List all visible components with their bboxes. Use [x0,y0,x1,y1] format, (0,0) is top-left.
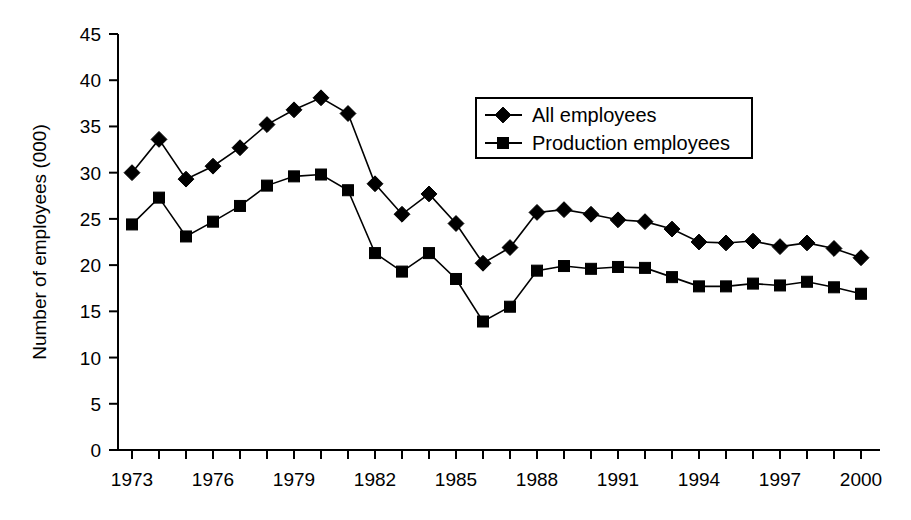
data-point-marker [124,165,140,181]
data-point-marker [829,282,840,293]
legend-item-label: All employees [532,104,657,126]
x-axis-tick-label: 1973 [111,469,153,490]
data-point-marker [208,216,219,227]
data-point-marker [154,192,165,203]
data-point-marker [559,261,570,272]
x-axis-tick-label: 2000 [840,469,882,490]
data-point-marker [475,255,491,271]
series-production-employees [127,169,867,327]
x-axis-tick-label: 1979 [273,469,315,490]
data-point-marker [127,219,138,230]
data-point-marker [424,248,435,259]
data-point-marker [748,278,759,289]
y-axis-tick-label: 25 [80,209,101,230]
data-point-marker [721,281,732,292]
data-point-marker [262,180,273,191]
data-point-marker [583,206,599,222]
data-point-marker [586,263,597,274]
x-axis-tick-label: 1985 [435,469,477,490]
y-axis-tick-label: 0 [90,440,101,461]
data-point-marker [610,212,626,228]
data-point-marker [532,265,543,276]
y-axis-tick-label: 40 [80,70,101,91]
data-point-marker [613,261,624,272]
data-point-marker [316,169,327,180]
y-axis-tick-label: 15 [80,301,101,322]
data-point-marker [502,240,518,256]
data-point-marker [691,234,707,250]
data-point-marker [397,266,408,277]
data-point-marker [235,200,246,211]
data-point-marker [772,239,788,255]
data-point-marker [664,221,680,237]
chart-legend: All employeesProduction employees [476,98,752,158]
y-axis-tick-label: 5 [90,394,101,415]
data-point-marker [799,235,815,251]
data-point-marker [637,214,653,230]
data-point-marker [451,273,462,284]
x-axis-tick-label: 1991 [597,469,639,490]
y-axis-tick-label: 45 [80,24,101,45]
y-axis-tick-label: 10 [80,348,101,369]
data-point-marker [718,235,734,251]
data-point-marker [286,102,302,118]
data-point-marker [775,280,786,291]
data-point-marker [181,231,192,242]
data-point-marker [289,171,300,182]
data-point-marker [505,301,516,312]
data-point-marker [802,276,813,287]
x-axis: 1973197619791982198519881991199419972000 [111,450,882,490]
x-axis-tick-label: 1982 [354,469,396,490]
x-axis-tick-label: 1976 [192,469,234,490]
line-chart-canvas: 051015202530354045 197319761979198219851… [0,0,911,520]
data-point-marker [313,90,329,106]
y-axis-title: Number of employees (000) [29,124,50,360]
data-point-marker [205,158,221,174]
data-point-marker [478,316,489,327]
chart-figure: 051015202530354045 197319761979198219851… [0,0,911,520]
data-point-marker [853,250,869,266]
data-point-marker [151,131,167,147]
legend-item-label: Production employees [532,132,730,154]
data-point-marker [826,241,842,257]
x-axis-tick-label: 1994 [678,469,721,490]
x-axis-tick-label: 1997 [759,469,801,490]
data-point-marker [178,171,194,187]
data-point-marker [370,248,381,259]
data-point-marker [640,262,651,273]
data-point-marker [694,281,705,292]
data-point-marker [340,106,356,122]
data-point-marker [529,204,545,220]
data-point-marker [556,202,572,218]
data-point-marker [498,138,509,149]
x-axis-tick-label: 1988 [516,469,558,490]
data-point-marker [856,288,867,299]
y-axis-tick-label: 35 [80,116,101,137]
data-point-marker [667,272,678,283]
data-point-marker [745,233,761,249]
y-axis: 051015202530354045 [80,24,118,461]
data-point-marker [343,185,354,196]
y-axis-tick-label: 30 [80,163,101,184]
y-axis-tick-label: 20 [80,255,101,276]
